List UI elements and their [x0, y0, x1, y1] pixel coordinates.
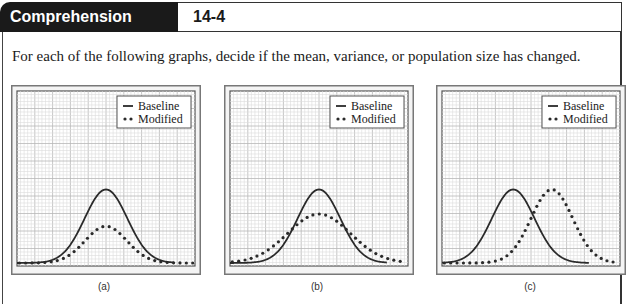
legend: BaselineModified — [330, 96, 404, 128]
legend: BaselineModified — [117, 96, 191, 128]
chart-a: BaselineModified — [11, 85, 201, 275]
header-title: Comprehension Check — [0, 2, 178, 32]
legend-baseline-label: Baseline — [138, 99, 179, 113]
legend-modified-label: Modified — [351, 112, 396, 126]
legend-modified-label: Modified — [138, 112, 183, 126]
legend-baseline-label: Baseline — [563, 99, 604, 113]
prompt-text: For each of the following graphs, decide… — [12, 48, 581, 65]
caption-a: (a) — [89, 281, 119, 292]
chart-c: BaselineModified — [436, 85, 626, 275]
legend-baseline-label: Baseline — [351, 99, 392, 113]
legend: BaselineModified — [542, 96, 616, 128]
caption-b: (b) — [302, 281, 332, 292]
section-header: Comprehension Check 14-4 — [0, 0, 622, 32]
chart-b: BaselineModified — [224, 85, 414, 275]
legend-modified-label: Modified — [563, 112, 608, 126]
caption-c: (c) — [515, 281, 545, 292]
header-number: 14-4 — [178, 2, 622, 32]
